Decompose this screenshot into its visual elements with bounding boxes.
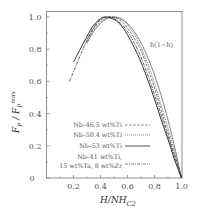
x-tick-label: 0.2: [67, 182, 80, 191]
y-tick-label: 0.8: [29, 45, 42, 54]
x-tick-label: 1.0: [175, 182, 188, 191]
legend: Nb–46.5 wt%Ti Nb–50.4 wt%Ti Nb–53 wt%Ti …: [59, 121, 150, 169]
y-tick-label: 1.0: [29, 13, 42, 22]
y-axis-title: FP / FPmax: [9, 90, 23, 134]
legend-label-0: Nb–46.5 wt%Ti: [73, 121, 122, 128]
legend-label-2: Nb–53 wt%Ti: [79, 142, 122, 149]
y-tick-label: 0.6: [29, 77, 42, 86]
annotation-h1h: h(1−h): [150, 41, 173, 49]
svg-text:FP / FPmax: FP / FPmax: [9, 90, 23, 134]
x-tick-label: 0.8: [148, 182, 161, 191]
x-axis-title: H/NHC2: [99, 195, 136, 208]
x-tick-label: 0.4: [94, 182, 107, 191]
legend-label-3b: 15 wt%Ta, 8 wt%Zr: [59, 162, 123, 169]
legend-label-1: Nb–50.4 wt%Ti: [73, 131, 122, 138]
chart: 0.20.40.60.81.0 00.20.40.60.81.0 h(1−h) …: [0, 0, 197, 218]
x-ticks: 0.20.40.60.81.0: [60, 175, 188, 191]
x-tick-label: 0.6: [121, 182, 134, 191]
y-tick-label: 0.4: [29, 110, 42, 119]
y-tick-label: 0.2: [29, 142, 42, 151]
y-tick-label: 0: [29, 174, 34, 183]
legend-label-3a: Nb–41 wt%Ti,: [77, 153, 122, 160]
